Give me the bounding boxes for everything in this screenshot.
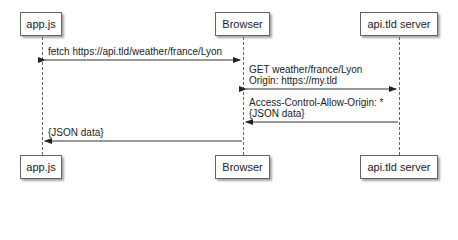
actor-app-label: app.js — [26, 161, 55, 173]
actor-browser-bottom: Browser — [215, 155, 270, 179]
actor-browser-label: Browser — [222, 161, 262, 173]
message-json-return: {JSON data} — [48, 127, 104, 139]
actor-app-bottom: app.js — [20, 155, 62, 179]
actor-server-bottom: api.tld server — [360, 155, 438, 179]
message-response-line2: {JSON data} — [249, 108, 305, 120]
message-get-line2: Origin: https://my.tld — [249, 75, 337, 87]
message-fetch: fetch https://api.tld/weather/france/Lyo… — [48, 46, 222, 58]
actor-server-label: api.tld server — [368, 161, 431, 173]
